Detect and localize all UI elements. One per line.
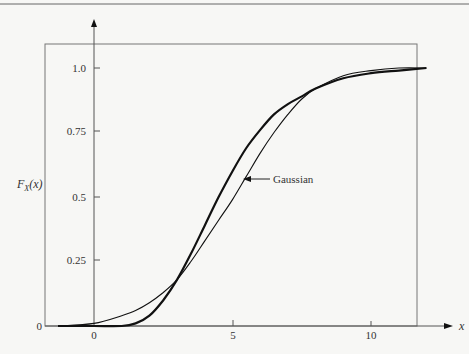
cdf-chart: 1.0 0.75 0.5 0.25 0 0 5 10 x FX(x) Gauss… [0,0,469,354]
y-tick-label: 0 [37,320,43,332]
x-axis-label: x [458,319,465,333]
y-ticks [94,68,100,260]
x-tick-label: 0 [91,329,97,341]
annotation-arrow-icon [243,176,251,182]
x-ticks [233,320,371,326]
plot-frame [45,44,417,326]
y-tick-label: 0.25 [67,254,87,266]
x-axis-arrow-icon [444,323,453,329]
y-axis-label: FX(x) [16,177,43,193]
y-tick-label: 1.0 [72,62,86,74]
y-axis-arrow-icon [91,19,97,27]
gaussian-cdf-curve [58,68,426,326]
actual-cdf-curve [58,68,426,326]
y-tick-label: 0.5 [72,191,86,203]
y-tick-label: 0.75 [67,125,87,137]
x-tick-label: 10 [366,329,378,341]
gaussian-annotation: Gaussian [273,173,314,185]
x-tick-label: 5 [230,329,236,341]
